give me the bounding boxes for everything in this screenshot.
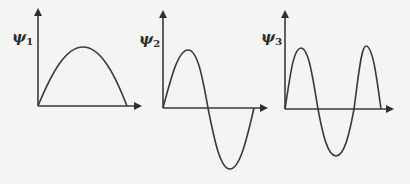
psi2-curve bbox=[163, 50, 254, 169]
panel-psi3 bbox=[285, 12, 392, 156]
psi1-label: ψ1 bbox=[12, 30, 33, 47]
wavefunction-figure: ψ1 ψ2 ψ3 bbox=[0, 0, 410, 184]
panel-psi2 bbox=[163, 12, 266, 169]
psi3-curve bbox=[285, 46, 381, 156]
psi3-label: ψ3 bbox=[261, 30, 282, 47]
psi1-curve bbox=[38, 47, 127, 106]
psi2-label: ψ2 bbox=[139, 32, 160, 49]
wavefunction-plots bbox=[0, 0, 410, 184]
panel-psi1 bbox=[38, 10, 140, 106]
